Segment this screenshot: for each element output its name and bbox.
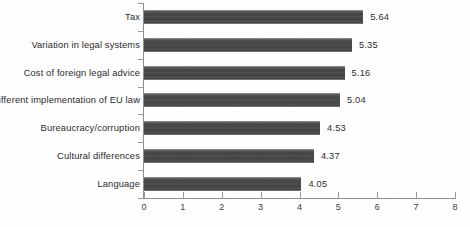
bar-chart: 012345678 Tax5.64Variation in legal syst… [0, 0, 470, 227]
bar-value-label: 4.53 [327, 123, 346, 133]
category-label: Bureaucracy/corruption [41, 123, 140, 133]
x-tick-label: 2 [207, 202, 237, 212]
bar [144, 38, 352, 51]
bar-row: Language4.05 [0, 170, 470, 198]
bar [144, 122, 320, 135]
x-tick-label: 3 [246, 202, 276, 212]
bar-value-label: 4.37 [321, 151, 340, 161]
bar-value-label: 5.64 [370, 12, 389, 22]
category-label: Language [97, 179, 140, 189]
bar-row: Different implementation of EU law5.04 [0, 87, 470, 115]
bar-value-label: 5.35 [359, 40, 378, 50]
bar-row: Cultural differences4.37 [0, 142, 470, 170]
x-tick-label: 1 [168, 202, 198, 212]
bar-row: Variation in legal systems5.35 [0, 31, 470, 59]
x-tick-label: 5 [323, 202, 353, 212]
x-tick-label: 6 [362, 202, 392, 212]
category-label: Cultural differences [57, 151, 140, 161]
x-tick-label: 4 [285, 202, 315, 212]
bar-row: Tax5.64 [0, 3, 470, 31]
category-label: Variation in legal systems [31, 40, 140, 50]
bar [144, 150, 314, 163]
x-axis-line [143, 198, 456, 199]
category-label: Different implementation of EU law [0, 95, 140, 105]
bar-row: Cost of foreign legal advice5.16 [0, 59, 470, 87]
bar-value-label: 5.16 [352, 68, 371, 78]
bar [144, 66, 345, 79]
bar-value-label: 5.04 [347, 95, 366, 105]
x-tick-label: 7 [401, 202, 431, 212]
category-label: Cost of foreign legal advice [24, 68, 140, 78]
bar [144, 94, 340, 107]
bar-row: Bureaucracy/corruption4.53 [0, 114, 470, 142]
x-tick-label: 0 [129, 202, 159, 212]
x-tick-label: 8 [440, 202, 470, 212]
category-label: Tax [125, 12, 140, 22]
bar [144, 10, 363, 23]
bar-value-label: 4.05 [308, 179, 327, 189]
y-tick-mark [138, 198, 144, 199]
bar [144, 178, 301, 191]
